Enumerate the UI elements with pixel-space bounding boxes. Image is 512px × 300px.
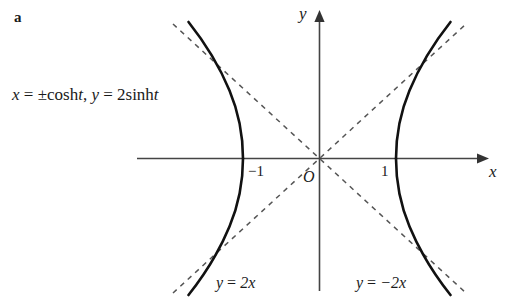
equation-x-var: x bbox=[12, 85, 20, 104]
y-axis-arrowhead bbox=[314, 10, 324, 22]
y-axis bbox=[314, 10, 324, 291]
asymptote-left-expression: 2x bbox=[240, 274, 255, 291]
equation-equals-2: = bbox=[99, 85, 117, 104]
hyperbola-left-branch-upper bbox=[189, 22, 244, 159]
x-axis-arrowhead bbox=[477, 153, 489, 163]
plot-area bbox=[0, 0, 512, 300]
equation-equals-1: = bbox=[20, 85, 38, 104]
parametric-equation: x = ±cosht, y = 2sinht bbox=[12, 86, 159, 103]
asymptote-right-equals: = bbox=[363, 274, 380, 291]
equation-y-expression: 2sinh bbox=[117, 85, 154, 104]
x-tick-label-negative-one: −1 bbox=[248, 164, 264, 179]
hyperbola-right-branch-upper bbox=[396, 22, 451, 159]
equation-x-expression: ±cosh bbox=[38, 85, 79, 104]
asymptote-right-expression: −2x bbox=[380, 274, 406, 291]
asymptote-left-equals: = bbox=[223, 274, 240, 291]
x-axis bbox=[137, 153, 489, 163]
equation-y-var: y bbox=[91, 85, 99, 104]
equation-y-parameter: t bbox=[154, 85, 159, 104]
asymptote-label-positive-slope: y = 2x bbox=[216, 275, 255, 291]
hyperbola-figure: a x = ±cosht, y = 2sinht y x −1 1 O y = … bbox=[0, 0, 512, 300]
x-tick-label-positive-one: 1 bbox=[381, 164, 389, 179]
panel-letter: a bbox=[14, 10, 22, 25]
x-axis-label: x bbox=[489, 163, 497, 180]
y-axis-label: y bbox=[299, 5, 307, 22]
origin-label: O bbox=[303, 169, 315, 185]
asymptote-label-negative-slope: y = −2x bbox=[356, 275, 406, 291]
